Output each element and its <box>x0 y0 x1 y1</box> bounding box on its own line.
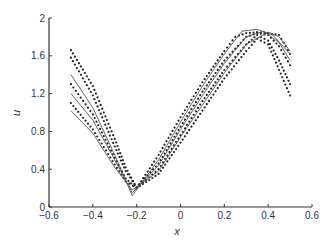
y-tick-label: 1.6 <box>31 50 45 61</box>
series-dots-dotted-3 <box>70 34 291 189</box>
series-dots-dotted-4 <box>70 38 291 190</box>
y-tick-label: 0.8 <box>31 126 45 137</box>
axes <box>49 18 312 207</box>
y-tick-label: 1.2 <box>31 88 45 99</box>
series-dots-dotted-1 <box>70 31 291 189</box>
x-tick-label: −0.2 <box>127 210 147 221</box>
y-tick-label: 2 <box>39 13 45 24</box>
x-tick-label: −0.4 <box>83 210 103 221</box>
y-axis-label: u <box>10 110 22 116</box>
chart: −0.6−0.4−0.200.20.40.6 00.40.81.21.62 x … <box>0 0 334 249</box>
x-tick-label: 0 <box>178 210 184 221</box>
y-tick-label: 0 <box>39 202 45 213</box>
plot-area <box>70 29 291 195</box>
x-tick-label: 0.2 <box>217 210 231 221</box>
series-line-solid-3 <box>71 32 290 190</box>
series-dots-dotted-2 <box>70 32 291 188</box>
y-tick-label: 0.4 <box>31 164 45 175</box>
x-axis-label: x <box>173 225 180 237</box>
x-tick-label: 0.6 <box>305 210 319 221</box>
x-tick-label: 0.4 <box>261 210 275 221</box>
